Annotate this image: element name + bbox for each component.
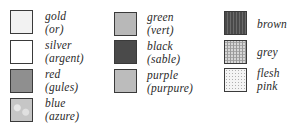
gold-swatch [10,10,33,34]
gules-label: (gules) [45,81,78,94]
black-swatch [114,40,137,64]
azure-label: (azure) [45,110,79,123]
argent-label: (argent) [45,52,84,65]
blue-swatch [10,98,33,122]
purple-label: purple [147,69,193,82]
black-label: black [147,40,180,53]
red-swatch [10,69,33,93]
sable-label: (sable) [147,53,180,66]
red-label: red [45,68,78,81]
brown-label: brown [257,18,287,31]
blue-label: blue [45,97,79,110]
flesh-label: flesh [257,67,280,80]
flesh-pink-swatch [224,68,247,92]
brown-swatch [224,11,247,35]
grey-swatch [224,40,247,64]
grey-label: grey [257,46,278,59]
green-label: green [147,11,174,24]
green-swatch [114,12,137,36]
purpure-label: (purpure) [147,82,193,95]
pink-label: pink [257,80,280,93]
vert-label: (vert) [147,24,174,37]
purple-swatch [114,69,137,93]
silver-label: silver [45,39,84,52]
gold-label: gold [45,10,66,23]
or-label: (or) [45,23,66,36]
silver-swatch [10,40,33,64]
